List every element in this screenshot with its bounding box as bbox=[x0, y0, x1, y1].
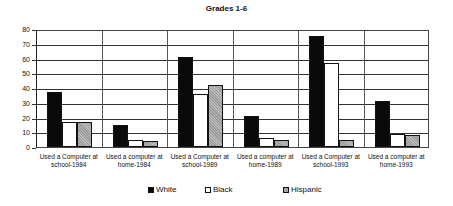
y-tick-label: 10 bbox=[0, 129, 30, 136]
bar-white bbox=[178, 57, 193, 147]
bar-hispanic bbox=[339, 140, 354, 147]
y-tick-label: 50 bbox=[0, 70, 30, 77]
category-separator bbox=[102, 31, 103, 147]
legend: White Black Hispanic bbox=[0, 185, 453, 197]
bar-white bbox=[113, 125, 128, 147]
bar-white bbox=[244, 116, 259, 147]
y-tick-label: 40 bbox=[0, 85, 30, 92]
white-swatch-icon bbox=[148, 187, 154, 193]
category-separator bbox=[298, 31, 299, 147]
chart-title: Grades 1-6 bbox=[0, 4, 453, 13]
category-separator bbox=[167, 31, 168, 147]
bar-black bbox=[193, 94, 208, 147]
category-separator bbox=[233, 31, 234, 147]
bar-black bbox=[324, 63, 339, 147]
bar-white bbox=[375, 101, 390, 147]
legend-item-white: White bbox=[148, 185, 176, 194]
bar-hispanic bbox=[274, 140, 289, 147]
x-tick-label: Used a Computer atschool-1989 bbox=[167, 153, 233, 169]
bar-hispanic bbox=[405, 135, 420, 147]
category-separator bbox=[364, 31, 365, 147]
plot-area bbox=[36, 30, 429, 148]
bar-hispanic bbox=[77, 122, 92, 147]
y-tick-label: 80 bbox=[0, 26, 30, 33]
legend-label-white: White bbox=[156, 185, 176, 194]
x-tick-label: Used a computer athome-1984 bbox=[101, 153, 167, 169]
legend-label-hispanic: Hispanic bbox=[291, 185, 322, 194]
bar-hispanic bbox=[208, 85, 223, 147]
x-tick-label: Used a Computer atschool-1993 bbox=[298, 153, 364, 169]
bar-black bbox=[390, 134, 405, 147]
bar-white bbox=[309, 36, 324, 147]
y-tick-label: 30 bbox=[0, 100, 30, 107]
legend-label-black: Black bbox=[213, 185, 233, 194]
x-tick-label: Used a Computer atschool-1984 bbox=[36, 153, 102, 169]
y-tick-label: 60 bbox=[0, 56, 30, 63]
y-tick-label: 70 bbox=[0, 41, 30, 48]
y-tick-label: 20 bbox=[0, 115, 30, 122]
legend-item-black: Black bbox=[205, 185, 233, 194]
legend-item-hispanic: Hispanic bbox=[283, 185, 322, 194]
bar-black bbox=[62, 122, 77, 147]
bar-hispanic bbox=[143, 141, 158, 147]
bar-white bbox=[47, 92, 62, 147]
hispanic-swatch-icon bbox=[283, 187, 289, 193]
bar-black bbox=[128, 140, 143, 147]
y-tick-label: 0 bbox=[0, 144, 30, 151]
bar-black bbox=[259, 138, 274, 147]
y-tick-mark bbox=[32, 148, 36, 149]
x-tick-label: Used a computer athome-1993 bbox=[363, 153, 429, 169]
black-swatch-icon bbox=[205, 187, 211, 193]
x-tick-label: Used a computer athome-1989 bbox=[232, 153, 298, 169]
